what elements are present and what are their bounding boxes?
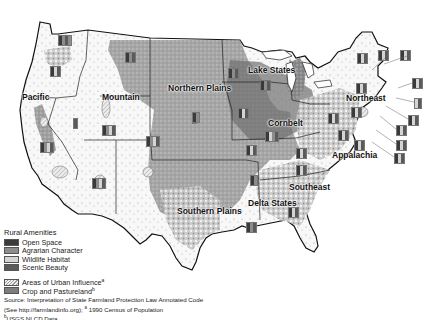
region-label-cornbelt: Cornbelt [268, 118, 303, 128]
region-label-delta-states: Delta States [248, 198, 297, 208]
legend-item-open-space: Open Space [4, 238, 244, 247]
legend-item-scenic-beauty: Scenic Beauty [4, 264, 244, 273]
swatch-scenic-beauty [4, 264, 19, 271]
legend-title: Rural Amenities [4, 228, 244, 237]
legend: Rural Amenities Open Space Agrarian Char… [4, 228, 244, 320]
swatch-wildlife-habitat [4, 256, 19, 263]
swatch-open-space [4, 239, 19, 246]
region-label-mountain: Mountain [102, 92, 140, 102]
region-label-northern-plains: Northern Plains [168, 83, 231, 93]
legend-item-crop-pastureland: Crop and Pasturelandb [4, 287, 244, 296]
source-note: Source: Interpretation of State Farmland… [4, 296, 244, 320]
region-label-northeast: Northeast [346, 93, 386, 103]
legend-item-wildlife-habitat: Wildlife Habitat [4, 255, 244, 264]
legend-item-agrarian-character: Agrarian Character [4, 247, 244, 256]
region-label-pacific: Pacific [22, 92, 49, 102]
swatch-agrarian-character [4, 247, 19, 254]
swatch-urban-influence [4, 279, 19, 286]
region-label-lake-states: Lake States [248, 65, 295, 75]
region-label-southern-plains: Southern Plains [177, 206, 242, 216]
region-label-southeast: Southeast [289, 182, 330, 192]
swatch-crop-pastureland [4, 287, 19, 294]
region-label-appalachia: Appalachia [332, 150, 377, 160]
